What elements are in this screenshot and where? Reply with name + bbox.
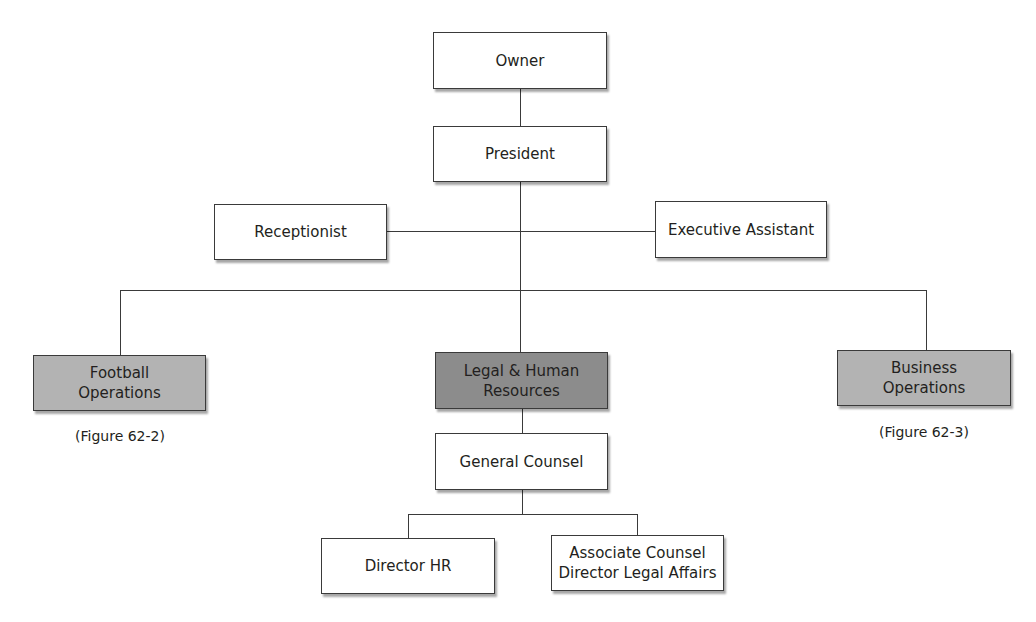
node-associate-counsel: Associate Counsel Director Legal Affairs [551, 535, 724, 591]
node-business-operations: Business Operations [837, 350, 1011, 406]
node-executive-assistant: Executive Assistant [655, 201, 827, 258]
connector-associate-counsel [637, 514, 638, 535]
connector-president-trunk [520, 182, 521, 352]
node-general-counsel: General Counsel [435, 433, 608, 490]
connector-legal-counsel [522, 409, 523, 433]
node-football-operations-label: Football Operations [78, 363, 160, 403]
node-executive-assistant-label: Executive Assistant [668, 220, 814, 240]
node-legal-hr-label: Legal & Human Resources [464, 361, 580, 401]
node-president-label: President [485, 144, 555, 164]
connector-counsel-down [522, 490, 523, 514]
caption-business: (Figure 62-3) [837, 424, 1011, 440]
node-receptionist-label: Receptionist [254, 222, 347, 242]
connector-director-hr [408, 514, 409, 538]
connector-business [926, 290, 927, 350]
node-receptionist: Receptionist [214, 204, 387, 260]
node-general-counsel-label: General Counsel [460, 452, 584, 472]
node-associate-counsel-label: Associate Counsel Director Legal Affairs [559, 543, 717, 583]
node-business-operations-label: Business Operations [883, 358, 965, 398]
node-owner: Owner [433, 32, 607, 89]
caption-football: (Figure 62-2) [33, 428, 207, 444]
node-president: President [433, 126, 607, 182]
connector-owner-president [520, 89, 521, 126]
connector-legal-horizontal [408, 514, 638, 515]
node-legal-hr: Legal & Human Resources [435, 352, 608, 409]
node-director-hr-label: Director HR [365, 556, 452, 576]
connector-divisions-horizontal [120, 290, 927, 291]
node-football-operations: Football Operations [33, 355, 206, 411]
connector-staff-horizontal [387, 231, 655, 232]
node-owner-label: Owner [496, 51, 545, 71]
connector-football [120, 290, 121, 355]
node-director-hr: Director HR [321, 538, 495, 594]
